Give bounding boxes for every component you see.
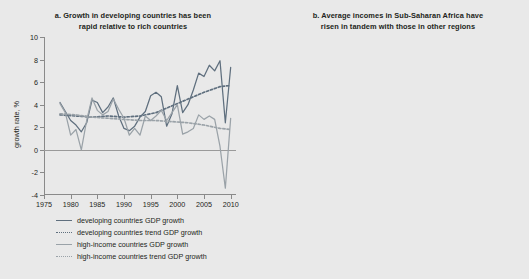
x-tick-label: 1975: [36, 200, 52, 209]
legend-item-high-income-gdp-growth[interactable]: high-income countries GDP growth: [56, 240, 207, 251]
x-tick-label: 1990: [116, 200, 132, 209]
x-tick: [231, 195, 232, 199]
y-tick-label: 10: [30, 33, 38, 42]
legend-label: developing countries trend GDP growth: [77, 228, 202, 239]
legend-label: high-income countries GDP growth: [77, 240, 188, 251]
x-tick: [204, 195, 205, 199]
x-tick: [71, 195, 72, 199]
panel-a-legend: developing countries GDP growthdevelopin…: [56, 216, 207, 264]
panel-a-title-line2: rapid relative to rich countries: [79, 22, 187, 31]
panel-a-label: a.: [55, 11, 61, 20]
x-tick-label: 2010: [223, 200, 239, 209]
panel-b: b. Average incomes in Sub-Saharan Africa…: [265, 0, 529, 279]
x-tick-label: 1980: [63, 200, 79, 209]
panel-b-label: b.: [313, 11, 320, 20]
y-tick-label: 8: [34, 55, 38, 64]
legend-item-developing-gdp-growth[interactable]: developing countries GDP growth: [56, 216, 207, 227]
x-tick: [151, 195, 152, 199]
x-tick: [44, 195, 45, 199]
x-tick-label: 1995: [143, 200, 159, 209]
x-tick-label: 2000: [169, 200, 185, 209]
y-tick-label: 4: [34, 100, 38, 109]
legend-item-high-income-trend-gdp-growth[interactable]: high-income countries trend GDP growth: [56, 252, 207, 263]
panel-b-title-line1: Average incomes in Sub-Saharan Africa ha…: [321, 11, 483, 20]
panel-a-title-line1: Growth in developing countries has been: [63, 11, 211, 20]
panel-a-series-layer: [44, 37, 236, 195]
x-tick: [124, 195, 125, 199]
legend-item-developing-trend-gdp-growth[interactable]: developing countries trend GDP growth: [56, 228, 207, 239]
x-tick: [177, 195, 178, 199]
x-tick: [97, 195, 98, 199]
panel-b-title: b. Average incomes in Sub-Saharan Africa…: [273, 11, 523, 32]
y-tick-label: -4: [32, 191, 38, 200]
y-tick-label: 0: [34, 145, 38, 154]
legend-swatch-solid: [56, 216, 72, 226]
x-tick-label: 2005: [196, 200, 212, 209]
legend-label: high-income countries trend GDP growth: [77, 252, 207, 263]
legend-swatch-dotted: [56, 228, 72, 238]
panel-a: a. Growth in developing countries has be…: [0, 0, 264, 279]
figure-container: a. Growth in developing countries has be…: [0, 0, 529, 279]
x-tick-label: 1985: [89, 200, 105, 209]
legend-swatch-solid: [56, 240, 72, 250]
y-tick-label: 2: [34, 123, 38, 132]
panel-a-plot: -4-20246810 1975198019851990199520002005…: [44, 37, 236, 195]
y-tick-label: 6: [34, 78, 38, 87]
panel-b-title-line2: risen in tandem with those in other regi…: [321, 22, 475, 31]
y-tick-label: -2: [32, 168, 38, 177]
legend-swatch-dotted: [56, 252, 72, 262]
panel-a-title: a. Growth in developing countries has be…: [8, 11, 258, 32]
panel-a-ylabel: growth rate, %: [12, 101, 21, 148]
legend-label: developing countries GDP growth: [77, 216, 184, 227]
